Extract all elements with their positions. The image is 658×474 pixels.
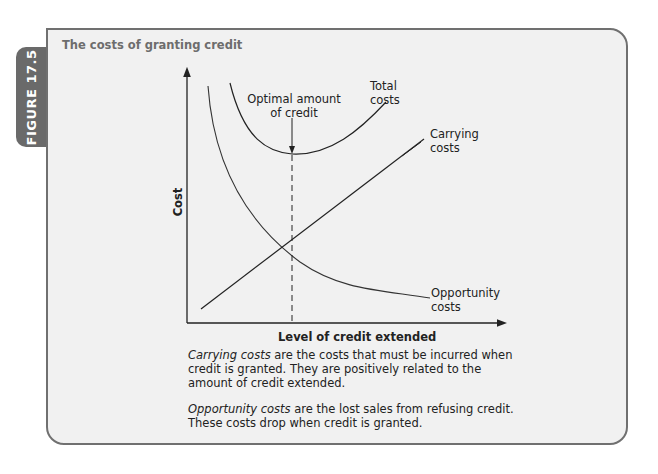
opportunity-term: Opportunity costs xyxy=(188,402,291,416)
carrying-leader xyxy=(402,142,421,156)
opportunity-costs-label: Opportunity costs xyxy=(431,286,500,314)
caption-opportunity: Opportunity costs are the lost sales fro… xyxy=(188,402,518,430)
carrying-term: Carrying costs xyxy=(188,348,271,362)
carrying-costs-label: Carrying costs xyxy=(430,127,479,155)
carrying-costs-line xyxy=(201,139,424,309)
optimal-amount-label: Optimal amount of credit xyxy=(246,92,342,120)
total-costs-label: Total costs xyxy=(370,79,400,107)
y-axis-label: Cost xyxy=(171,188,185,217)
caption-carrying: Carrying costs are the costs that must b… xyxy=(188,348,518,390)
x-axis-label: Level of credit extended xyxy=(278,330,436,344)
